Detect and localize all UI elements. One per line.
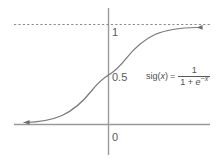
formula-close-paren: ): [165, 71, 168, 81]
y-tick-label-0.5: 0.5: [112, 72, 127, 83]
y-tick-label-0: 0: [112, 132, 118, 143]
formula-numerator: 1: [188, 66, 201, 76]
formula-denominator-prefix: 1 +: [180, 77, 195, 87]
sigmoid-formula-annotation: sig(x) = 1 1 + e−x: [146, 66, 210, 87]
sigmoid-chart-figure: 1 0.5 0 sig(x) = 1 1 + e−x: [0, 0, 222, 163]
formula-exponent-variable: x: [205, 75, 209, 82]
formula-fraction: 1 1 + e−x: [178, 66, 210, 87]
formula-denominator: 1 + e−x: [178, 77, 210, 87]
formula-equals-sign: =: [170, 72, 175, 81]
formula-denominator-exponent: −x: [201, 75, 209, 82]
formula-left-hand-side: sig(x): [146, 72, 168, 81]
formula-function-name: sig: [146, 71, 158, 81]
y-tick-label-1: 1: [112, 27, 118, 38]
